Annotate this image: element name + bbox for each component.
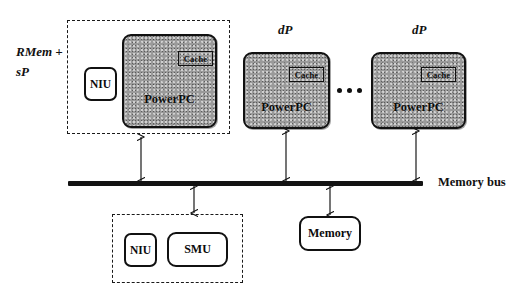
group-label-rmem-sp-line2: sP bbox=[16, 64, 29, 80]
cache-block-2: Cache bbox=[421, 67, 456, 82]
processor-tag-1: dP bbox=[278, 22, 292, 38]
unit-smu-label: SMU bbox=[184, 242, 211, 257]
processor-tag-2: dP bbox=[412, 22, 426, 38]
cache-label-1: Cache bbox=[295, 70, 319, 80]
processor-label-2: PowerPC bbox=[373, 100, 464, 115]
ellipsis-more-processors bbox=[337, 88, 362, 93]
processor-block-1[interactable]: Cache PowerPC bbox=[243, 52, 330, 129]
cache-label-0: Cache bbox=[184, 54, 208, 64]
unit-smu[interactable]: SMU bbox=[167, 232, 228, 267]
processor-label-0: PowerPC bbox=[124, 92, 215, 107]
memory-bus-line bbox=[68, 181, 423, 186]
unit-niu-top[interactable]: NIU bbox=[84, 67, 117, 101]
memory-bus-label: Memory bus bbox=[438, 175, 506, 190]
processor-block-0[interactable]: Cache PowerPC bbox=[122, 34, 217, 128]
diagram-canvas: RMem + sP NIU Cache PowerPC dP Cache Pow… bbox=[0, 0, 528, 300]
unit-niu-bottom-label: NIU bbox=[130, 244, 151, 256]
unit-niu-top-label: NIU bbox=[90, 78, 111, 90]
cache-block-1: Cache bbox=[289, 67, 324, 82]
processor-label-1: PowerPC bbox=[245, 100, 328, 115]
processor-block-2[interactable]: Cache PowerPC bbox=[371, 52, 466, 129]
group-label-rmem-sp-line1: RMem + bbox=[16, 44, 63, 60]
unit-memory-label: Memory bbox=[308, 226, 352, 241]
unit-memory[interactable]: Memory bbox=[299, 216, 361, 251]
cache-label-2: Cache bbox=[427, 70, 451, 80]
unit-niu-bottom[interactable]: NIU bbox=[124, 233, 157, 267]
cache-block-0: Cache bbox=[178, 51, 213, 66]
